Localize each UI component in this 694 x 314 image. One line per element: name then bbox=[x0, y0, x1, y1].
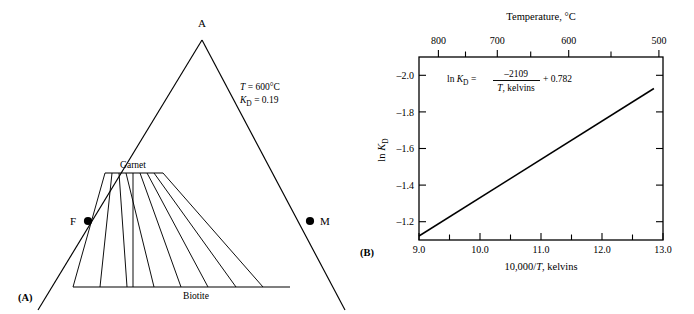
panel-a-id: (A) bbox=[18, 292, 33, 304]
bottom-tick-label: 9.0 bbox=[413, 244, 426, 255]
top-tick-label: 500 bbox=[651, 35, 666, 46]
panel-a-annotation: T = 600°C KD = 0.19 bbox=[239, 82, 280, 108]
y-axis-title-pre: ln bbox=[376, 151, 387, 162]
equation-denominator-rest: , kelvins bbox=[503, 83, 535, 93]
annotation-temperature: T = 600°C bbox=[240, 82, 280, 92]
figure-svg: A T = 600°C KD = 0.19 Garnet Biotite bbox=[0, 0, 694, 314]
left-axis-tick-labels: –2.0 –1.8 –1.6 –1.4 –1.2 bbox=[396, 70, 415, 227]
equation-equals: = bbox=[469, 74, 477, 84]
bottom-axis-title-pre: 10,000/ bbox=[504, 261, 536, 272]
figure-container: A T = 600°C KD = 0.19 Garnet Biotite bbox=[0, 0, 694, 314]
tie-line bbox=[140, 173, 181, 287]
right-axis-ticks bbox=[656, 75, 663, 221]
tie-line bbox=[126, 173, 154, 287]
left-axis-ticks bbox=[419, 75, 426, 221]
equation-lhs-pre: ln bbox=[447, 74, 457, 84]
biotite-label: Biotite bbox=[183, 291, 209, 301]
equation-annotation: ln KD = –2109 T, kelvins + 0.782 bbox=[447, 69, 572, 93]
y-axis-title-sub: D bbox=[381, 138, 390, 144]
tie-line bbox=[73, 173, 105, 287]
y-tick-label: –2.0 bbox=[396, 70, 415, 81]
top-tick-label: 800 bbox=[431, 35, 446, 46]
tie-line bbox=[154, 173, 236, 287]
top-axis-tick-labels: 800 700 600 500 bbox=[431, 35, 667, 46]
m-vertex-dot bbox=[306, 217, 314, 225]
bottom-axis-title-post: , kelvins bbox=[542, 261, 578, 272]
triangle-left-edge bbox=[38, 40, 202, 310]
m-vertex-label: M bbox=[320, 215, 330, 227]
panel-a: A T = 600°C KD = 0.19 Garnet Biotite bbox=[18, 17, 345, 310]
tie-line bbox=[100, 173, 112, 287]
y-tick-label: –1.2 bbox=[396, 216, 415, 227]
annotation-kd-value: = 0.19 bbox=[252, 95, 279, 105]
bottom-axis-tick-labels: 9.0 10.0 11.0 12.0 13.0 bbox=[413, 244, 672, 255]
bottom-tick-label: 11.0 bbox=[532, 244, 549, 255]
y-tick-label: –1.8 bbox=[396, 107, 415, 118]
bottom-tick-label: 12.0 bbox=[593, 244, 611, 255]
bottom-axis-title: 10,000/T, kelvins bbox=[504, 261, 577, 272]
equation-numerator: –2109 bbox=[503, 69, 528, 79]
equation-addend: + 0.782 bbox=[543, 74, 572, 84]
bottom-tick-label: 10.0 bbox=[471, 244, 489, 255]
y-tick-label: –1.4 bbox=[396, 180, 415, 191]
f-vertex-dot bbox=[84, 217, 92, 225]
f-vertex-label: F bbox=[70, 215, 76, 227]
bottom-axis-ticks bbox=[419, 233, 663, 240]
annotation-kd: KD = 0.19 bbox=[239, 95, 279, 108]
garnet-label: Garnet bbox=[120, 160, 146, 170]
annotation-temperature-value: = 600°C bbox=[245, 82, 280, 92]
top-tick-label: 700 bbox=[490, 35, 505, 46]
equation-lhs: ln KD = bbox=[447, 74, 476, 87]
top-axis-ticks bbox=[438, 50, 659, 57]
tie-lines-group bbox=[73, 173, 263, 287]
panel-b-id: (B) bbox=[360, 247, 375, 259]
y-tick-label: –1.6 bbox=[396, 143, 415, 154]
bottom-tick-label: 13.0 bbox=[654, 244, 672, 255]
tie-line bbox=[119, 173, 127, 287]
data-line-ln-kd bbox=[419, 89, 654, 237]
top-tick-label: 600 bbox=[561, 35, 576, 46]
equation-denominator: T, kelvins bbox=[497, 83, 535, 93]
top-axis-title: Temperature, °C bbox=[506, 11, 575, 22]
apex-label-a: A bbox=[198, 17, 206, 29]
panel-b: Temperature, °C 800 700 600 500 bbox=[360, 11, 672, 272]
y-axis-title: ln KD bbox=[376, 138, 390, 162]
